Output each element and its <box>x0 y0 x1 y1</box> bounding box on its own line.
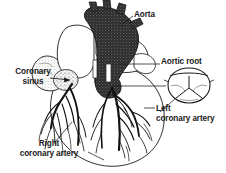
label-aorta: Aorta <box>134 10 155 20</box>
label-right-coronary-artery: Right coronary artery <box>10 139 88 159</box>
aortic-root-inset <box>164 68 214 103</box>
label-coronary-sinus-line2: sinus <box>6 77 60 87</box>
label-coronary-sinus: Coronary sinus <box>6 67 60 87</box>
label-right-coronary-line1: Right <box>10 139 88 149</box>
label-aortic-root: Aortic root <box>161 57 202 67</box>
label-left-coronary-line1: Left <box>156 104 215 114</box>
heart-anatomy-figure: Aorta Aortic root Coronary sinus Left co… <box>0 0 226 173</box>
label-left-coronary-line2: coronary artery <box>156 114 215 124</box>
label-right-coronary-line2: coronary artery <box>10 149 88 159</box>
label-left-coronary-artery: Left coronary artery <box>156 104 215 124</box>
label-coronary-sinus-line1: Coronary <box>6 67 60 77</box>
